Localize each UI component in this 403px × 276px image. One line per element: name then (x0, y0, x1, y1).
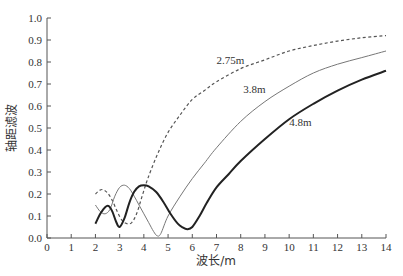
x-tick-label: 1 (68, 241, 74, 253)
x-tick-label: 13 (356, 241, 368, 253)
y-tick-label: 0.6 (28, 100, 42, 112)
y-axis-title: 轴距滤波 (4, 104, 19, 152)
y-tick-label: 0.0 (28, 232, 42, 244)
x-axis: 01234567891011121314 (44, 234, 392, 253)
y-tick-label: 0.1 (28, 210, 42, 222)
series-label: 3.8m (243, 83, 266, 95)
y-tick-label: 0.9 (28, 34, 42, 46)
x-tick-label: 12 (332, 241, 343, 253)
y-tick-label: 0.2 (28, 188, 42, 200)
series-label: 2.75m (217, 54, 245, 66)
x-tick-label: 3 (117, 241, 123, 253)
x-tick-label: 8 (238, 241, 244, 253)
y-tick-label: 0.3 (28, 166, 42, 178)
x-tick-label: 4 (141, 241, 147, 253)
x-axis-title: 波长/m (196, 254, 236, 268)
y-tick-label: 0.7 (28, 78, 42, 90)
y-tick-label: 0.4 (28, 144, 42, 156)
line-chart: 0.00.10.20.30.40.50.60.70.80.91.0 012345… (0, 0, 403, 276)
x-tick-label: 10 (284, 241, 296, 253)
series-label: 4.8m (289, 116, 312, 128)
x-tick-label: 7 (214, 241, 220, 253)
y-axis: 0.00.10.20.30.40.50.60.70.80.91.0 (28, 12, 51, 244)
x-tick-label: 6 (190, 241, 196, 253)
x-tick-label: 11 (308, 241, 319, 253)
y-tick-label: 1.0 (28, 12, 42, 24)
x-tick-label: 0 (44, 241, 50, 253)
y-tick-label: 0.5 (28, 122, 42, 134)
x-tick-label: 2 (93, 241, 99, 253)
x-tick-label: 9 (262, 241, 268, 253)
series-labels: 2.75m3.8m4.8m (217, 54, 312, 128)
x-tick-label: 14 (381, 241, 393, 253)
x-tick-label: 5 (165, 241, 171, 253)
y-tick-label: 0.8 (28, 56, 42, 68)
